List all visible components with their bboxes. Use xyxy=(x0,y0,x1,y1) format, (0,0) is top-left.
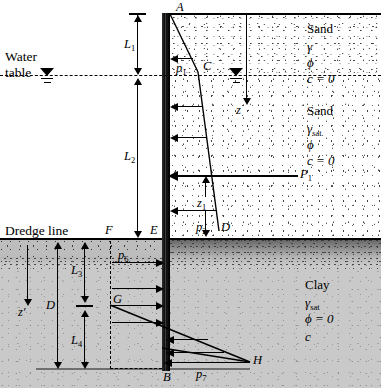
p7-pressure-line xyxy=(172,362,250,363)
clay-pressure-arrowhead-3 xyxy=(156,302,164,310)
pressure-arrow-line-1 xyxy=(178,58,193,59)
pressure-arrow-line-2 xyxy=(178,106,202,107)
pressure-arrowhead-3 xyxy=(170,134,178,142)
point-label-D: D xyxy=(221,221,230,234)
p7-pressure-arrowhead xyxy=(164,359,172,367)
p6-label: p6 xyxy=(118,249,129,262)
clay-pressure-line-p6 xyxy=(112,262,160,263)
sand-dry-unit-weight: γ xyxy=(307,40,312,53)
resultant-P1-line xyxy=(178,175,298,177)
sand-sat-cohesion: c = 0 xyxy=(307,154,335,167)
point-label-F: F xyxy=(105,224,113,237)
sand-dry-name: Sand xyxy=(307,22,333,35)
z1-label: z1 xyxy=(196,197,207,210)
clay-pressure-arrowhead-p6 xyxy=(156,259,164,267)
p7-label: p7 xyxy=(196,368,207,381)
pressure-line-G-H xyxy=(110,305,250,362)
point-label-E: E xyxy=(150,224,158,237)
point-label-H: H xyxy=(253,354,262,367)
p2-label: p2 xyxy=(196,221,207,234)
point-label-C: C xyxy=(203,60,211,73)
pressure-arrow-line-3 xyxy=(178,137,206,138)
clay-cohesion: c xyxy=(305,330,311,343)
P1-resultant-label: P1 xyxy=(300,168,312,181)
z1-arrow-up xyxy=(202,176,210,183)
point-label-A: A xyxy=(176,1,184,14)
resultant-P1-arrowhead xyxy=(168,171,178,181)
clay-friction-angle: ϕ = 0 xyxy=(305,312,334,325)
clay-pressure-arrowhead-5 xyxy=(166,336,174,344)
clay-pressure-line-5 xyxy=(172,339,208,340)
pressure-arrowhead-2 xyxy=(170,103,178,111)
sand-sat-unit-weight: γsat xyxy=(307,122,322,135)
clay-pressure-arrowhead-6 xyxy=(166,349,174,357)
clay-name: Clay xyxy=(305,278,330,291)
sheet-pile-pressure-diagram: Water table Dredge line L1 L2 z z′ D L3 … xyxy=(0,0,381,388)
clay-unit-weight: γsat xyxy=(305,296,320,309)
pressure-arrowhead-4 xyxy=(170,207,178,215)
sand-sat-name: Sand xyxy=(307,104,333,117)
pressure-line-B-H xyxy=(162,348,250,362)
clay-pressure-arrowhead-4 xyxy=(156,319,164,327)
clay-pressure-line-4 xyxy=(112,322,160,323)
clay-pressure-line-6 xyxy=(172,352,224,353)
clay-pressure-line-2 xyxy=(112,288,160,289)
sand-dry-cohesion: c = 0 xyxy=(307,72,335,85)
clay-pressure-arrowhead-2 xyxy=(156,285,164,293)
sand-sat-friction-angle: ϕ xyxy=(307,138,314,151)
sand-dry-friction-angle: ϕ xyxy=(307,56,314,69)
pressure-arrow-line-4 xyxy=(178,210,216,211)
p1-label: p1 xyxy=(176,62,187,75)
point-label-B: B xyxy=(163,371,171,384)
point-label-G: G xyxy=(113,293,122,306)
